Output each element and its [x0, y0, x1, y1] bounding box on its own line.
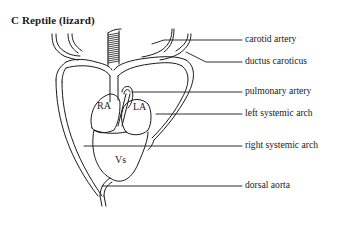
left-outer-arch [56, 59, 112, 196]
right-outer-arch [114, 57, 194, 150]
trachea [108, 29, 121, 66]
dorsal-aorta-vessel [100, 178, 112, 206]
chamber-label-la: LA [133, 102, 146, 112]
central-trunk [110, 76, 118, 102]
chamber-label-ra: RA [97, 101, 111, 111]
label-right-systemic-arch: right systemic arch [245, 140, 318, 150]
chamber-label-vs: Vs [115, 155, 126, 165]
label-carotid-artery: carotid artery [245, 34, 296, 44]
label-ductus-caroticus: ductus caroticus [245, 56, 307, 66]
label-left-systemic-arch: left systemic arch [245, 108, 313, 118]
left-carotid-vessels [52, 34, 82, 60]
label-dorsal-aorta: dorsal aorta [245, 180, 290, 190]
right-carotid-vessels [142, 29, 191, 60]
label-pulmonary-artery: pulmonary artery [245, 86, 311, 96]
